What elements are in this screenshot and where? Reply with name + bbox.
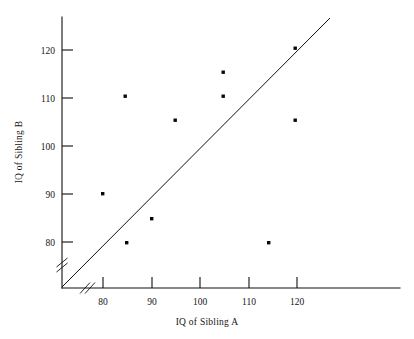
data-point xyxy=(294,119,297,122)
plot-canvas: 120 110 100 90 80 80 90 100 110 120 xyxy=(0,0,414,339)
data-point xyxy=(294,47,297,50)
y-axis-tick-labels: 120 110 100 90 80 xyxy=(41,46,56,248)
y-axis-title: IQ of Sibling B xyxy=(14,121,24,184)
data-point xyxy=(267,241,270,244)
x-axis-tick-labels: 80 90 100 110 120 xyxy=(98,297,304,307)
x-tick-label: 80 xyxy=(98,297,108,307)
data-points-group xyxy=(101,47,297,245)
y-axis-ticks xyxy=(62,50,73,242)
data-point xyxy=(124,95,127,98)
y-tick-label: 80 xyxy=(46,238,56,248)
data-point xyxy=(101,192,104,195)
x-axis-ticks xyxy=(103,277,297,288)
scatter-plot-figure: 120 110 100 90 80 80 90 100 110 120 xyxy=(0,0,414,339)
data-point xyxy=(174,119,177,122)
data-point xyxy=(125,241,128,244)
x-tick-label: 120 xyxy=(290,297,305,307)
identity-reference-line xyxy=(62,18,330,287)
x-tick-label: 110 xyxy=(242,297,256,307)
axes-group xyxy=(62,17,400,288)
y-tick-label: 120 xyxy=(41,46,56,56)
y-tick-label: 100 xyxy=(41,142,56,152)
x-tick-label: 90 xyxy=(147,297,157,307)
x-axis-title: IQ of Sibling A xyxy=(176,317,239,327)
data-point xyxy=(222,71,225,74)
x-tick-label: 100 xyxy=(193,297,208,307)
y-tick-label: 90 xyxy=(46,190,56,200)
y-tick-label: 110 xyxy=(41,94,55,104)
data-point xyxy=(150,217,153,220)
data-point xyxy=(222,95,225,98)
